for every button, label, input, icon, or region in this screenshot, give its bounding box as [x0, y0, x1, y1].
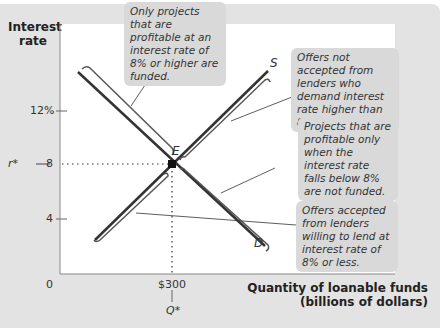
supply-label: S [270, 56, 278, 70]
equilibrium-point [168, 160, 176, 168]
callout-offers-accepted: Offers accepted from lenders willing to … [296, 201, 398, 272]
callout-unfunded-projects: Projects that are profitable only when t… [298, 117, 398, 201]
demand-curve [78, 72, 265, 246]
equilibrium-label: E [172, 144, 180, 158]
demand-label: D [254, 236, 263, 250]
callout-funded-projects: Only projects that are profitable at an … [124, 2, 226, 86]
supply-curve [95, 71, 268, 240]
bracket-supply-rejected [180, 79, 270, 160]
